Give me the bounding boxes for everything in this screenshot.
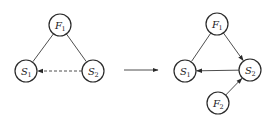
node-s2: S2 <box>239 59 261 81</box>
node-subscript: 2 <box>220 103 224 111</box>
edge-f1-s2 <box>223 33 243 61</box>
node-s1: S1 <box>174 60 196 82</box>
node-subscript: 1 <box>187 71 191 79</box>
node-s1: S1 <box>15 60 37 82</box>
node-f1: F1 <box>206 13 228 35</box>
node-f2: F2 <box>207 92 229 114</box>
edge-s2-s1 <box>196 70 239 71</box>
right-graph: F1S1S2F2 <box>174 13 261 114</box>
edge-f1-s1 <box>33 34 54 62</box>
left-graph: F1S1S2 <box>15 14 104 82</box>
node-subscript: 2 <box>95 71 99 79</box>
node-subscript: 1 <box>219 24 223 32</box>
node-subscript: 2 <box>252 70 256 78</box>
edge-f1-s1 <box>191 33 210 61</box>
edge-f1-s2 <box>66 34 86 62</box>
node-s2: S2 <box>82 60 104 82</box>
edge-f2-s2 <box>226 78 242 95</box>
node-f1: F1 <box>49 14 71 36</box>
node-subscript: 1 <box>62 25 66 33</box>
node-subscript: 1 <box>28 71 32 79</box>
diagram-canvas: F1S1S2 F1S1S2F2 <box>0 0 277 123</box>
